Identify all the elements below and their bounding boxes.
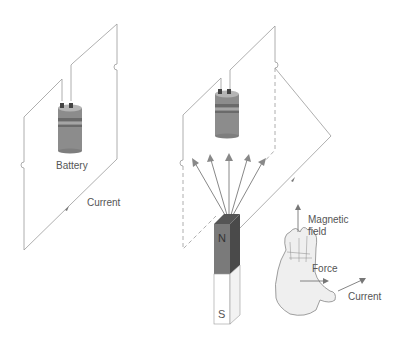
current-direction-arrow-right (291, 177, 295, 182)
magnetic-field-label-line2: field (308, 226, 326, 237)
battery-icon-right (215, 89, 239, 139)
current-direction-arrow-hand (338, 278, 366, 291)
magnetic-field-label-line1: Magnetic (308, 214, 349, 225)
current-label-right: Current (348, 291, 381, 302)
magnetic-field-arrows (192, 153, 266, 215)
magnet-south-label: S (218, 309, 225, 320)
magnet-north-label: N (218, 233, 226, 244)
battery-icon-left (58, 103, 82, 154)
right-circuit-wire (180, 26, 331, 228)
battery-label: Battery (56, 160, 88, 171)
current-label-left: Current (87, 197, 120, 208)
force-label: Force (312, 263, 338, 274)
current-direction-arrow-left (65, 206, 69, 211)
magnetic-field-direction-arrow (295, 204, 301, 232)
